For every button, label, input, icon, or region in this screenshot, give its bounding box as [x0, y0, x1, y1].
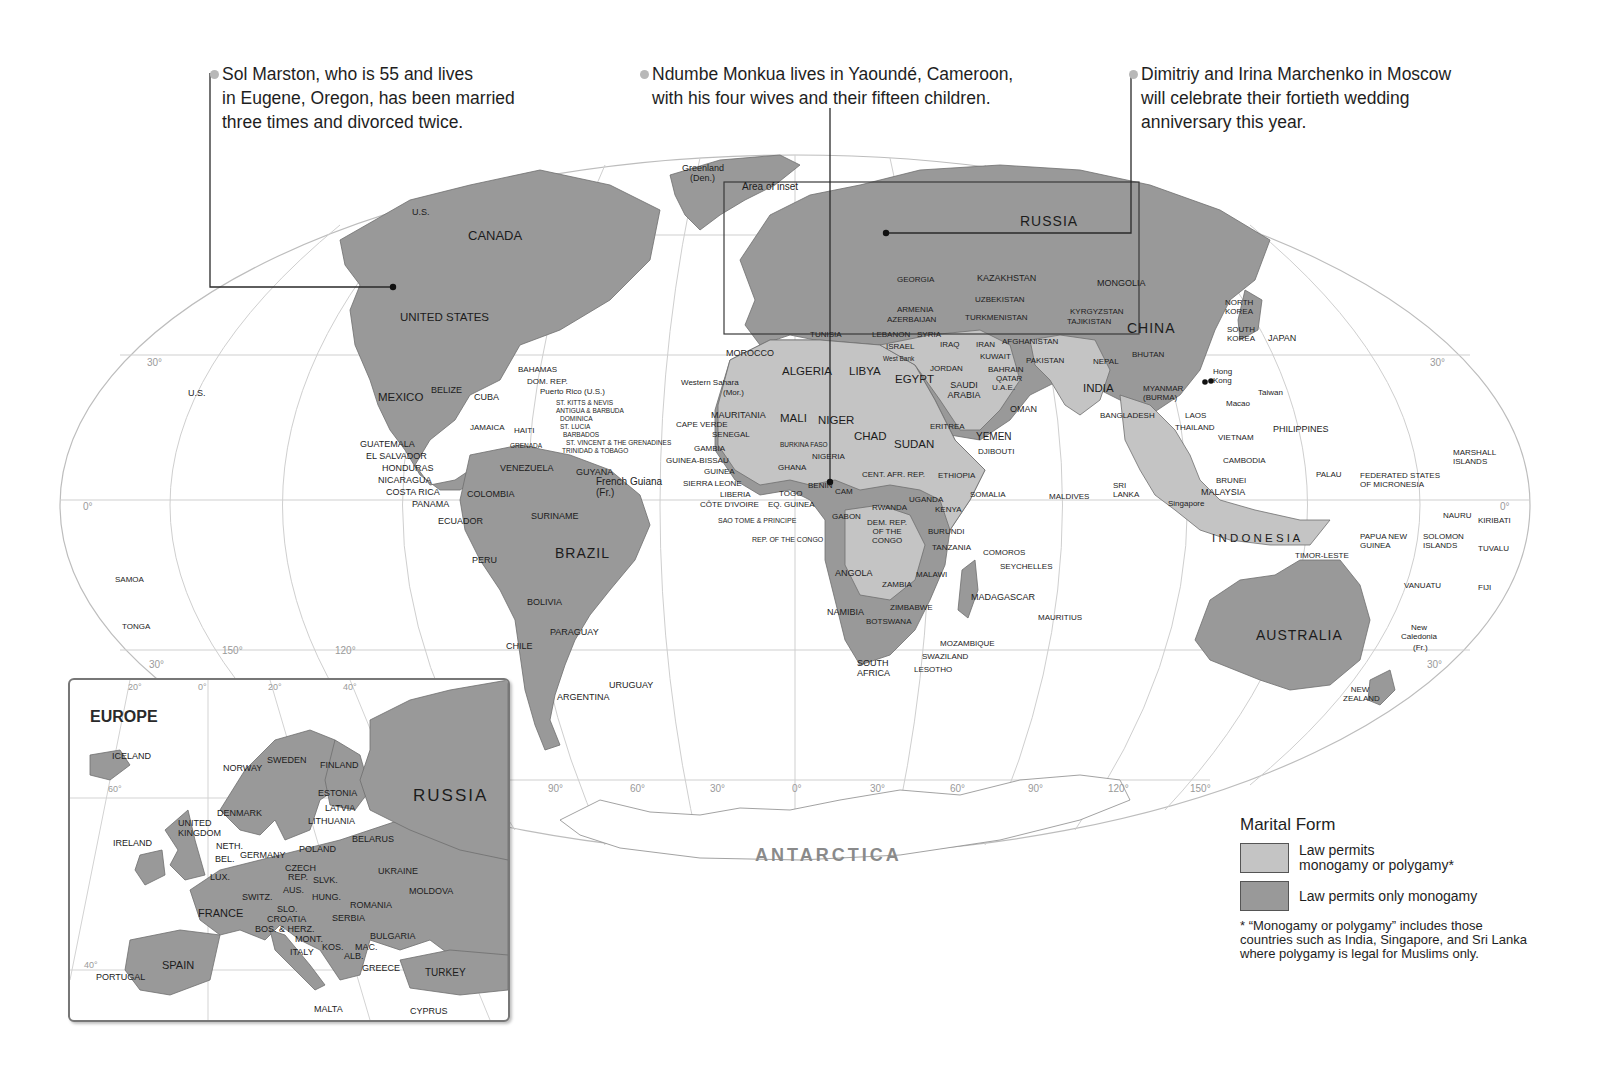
- label-rep-congo: REP. OF THE CONGO: [752, 535, 823, 544]
- label-morocco: MOROCCO: [726, 348, 774, 358]
- label-ecuador: ECUADOR: [438, 516, 483, 526]
- inset-label-portugal: PORTUGAL: [96, 973, 145, 982]
- label-paraguay: PARAGUAY: [550, 627, 599, 637]
- label-niger: NIGER: [818, 414, 854, 427]
- inset-label-bel: BEL.: [215, 855, 235, 864]
- inset-title: EUROPE: [90, 708, 158, 726]
- label-djibouti: DJIBOUTI: [978, 447, 1014, 456]
- bullet-icon: [640, 70, 649, 79]
- callout-marchenko: Dimitriy and Irina Marchenko in Moscow w…: [1141, 62, 1451, 134]
- label-kuwait: KUWAIT: [980, 352, 1011, 361]
- bullet-icon: [1129, 70, 1138, 79]
- label-haiti: HAITI: [514, 426, 534, 435]
- legend-item-monogamy: Law permits only monogamy: [1240, 881, 1530, 911]
- label-greenland: Greenland: [682, 163, 724, 173]
- inset-graticule-label: 0°: [198, 682, 207, 692]
- label-palau: PALAU: [1316, 470, 1342, 479]
- label-guinea: GUINEA: [704, 467, 735, 476]
- label-us-alaska: U.S.: [412, 207, 430, 217]
- inset-label-ukraine: UKRAINE: [378, 866, 418, 876]
- label-el-salvador: EL SALVADOR: [366, 451, 427, 461]
- inset-label-moldova: MOLDOVA: [409, 887, 453, 896]
- label-senegal: SENEGAL: [712, 430, 750, 439]
- inset-graticule-label: 20°: [128, 682, 142, 692]
- label-thailand: THAILAND: [1175, 423, 1215, 432]
- label-swaziland: SWAZILAND: [922, 652, 968, 661]
- label-bangladesh: BANGLADESH: [1100, 411, 1155, 420]
- bullet-icon: [210, 70, 219, 79]
- inset-label-turkey: TURKEY: [425, 968, 466, 978]
- label-costa-rica: COSTA RICA: [386, 487, 440, 497]
- label-marshall-islands: MARSHALL ISLANDS: [1453, 448, 1499, 466]
- label-new-caledonia-fr: (Fr.): [1413, 643, 1428, 652]
- label-cent-afr-rep: CENT. AFR. REP.: [862, 470, 925, 479]
- label-suriname: SURINAME: [531, 511, 579, 521]
- label-algeria: ALGERIA: [782, 365, 832, 378]
- inset-label-alb: ALB.: [344, 952, 364, 961]
- label-cote-divoire: CÔTE D'IVOIRE: [700, 500, 759, 509]
- label-nigeria: NIGERIA: [812, 452, 845, 461]
- label-egypt: EGYPT: [895, 373, 934, 386]
- legend-item-polygamy: Law permits monogamy or polygamy*: [1240, 843, 1530, 873]
- label-brazil: BRAZIL: [555, 545, 610, 561]
- label-burundi: BURUNDI: [928, 527, 964, 536]
- label-png: PAPUA NEW GUINEA: [1360, 532, 1412, 550]
- label-trinidad: TRINIDAD & TOBAGO: [562, 446, 628, 455]
- callout-line: will celebrate their fortieth wedding: [1141, 86, 1451, 110]
- label-angola: ANGOLA: [835, 568, 873, 578]
- label-jordan: JORDAN: [930, 364, 963, 373]
- inset-label-iceland: ICELAND: [112, 751, 151, 761]
- label-tajikistan: TAJIKISTAN: [1067, 317, 1111, 326]
- label-western-sahara-mor: (Mor.): [723, 388, 744, 397]
- lon-label: 150°: [222, 646, 243, 656]
- label-panama: PANAMA: [412, 499, 449, 509]
- inset-label-france: FRANCE: [198, 908, 243, 918]
- inset-label-romania: ROMANIA: [350, 901, 392, 910]
- inset-label-serbia: SERBIA: [332, 914, 365, 923]
- eugene-marker: [390, 284, 396, 290]
- label-indonesia: I N D O N E S I A: [1212, 532, 1300, 545]
- legend-swatch-light: [1240, 843, 1289, 873]
- label-georgia: GEORGIA: [897, 275, 934, 284]
- label-macao: Macao: [1226, 399, 1250, 408]
- label-sao-tome: SAO TOME & PRINCIPE: [718, 516, 796, 525]
- label-vanuatu: VANUATU: [1404, 581, 1441, 590]
- lon-label: 30°: [710, 784, 725, 794]
- label-nepal: NEPAL: [1093, 357, 1119, 366]
- inset-label-lux: LUX.: [210, 873, 230, 882]
- label-libya: LIBYA: [849, 365, 881, 378]
- inset-label-croatia: CROATIA: [267, 915, 306, 924]
- label-brunei: BRUNEI: [1216, 476, 1246, 485]
- label-micronesia: FEDERATED STATES OF MICRONESIA: [1360, 471, 1442, 489]
- label-india: INDIA: [1083, 382, 1114, 395]
- label-liberia: LIBERIA: [720, 490, 751, 499]
- label-colombia: COLOMBIA: [467, 489, 515, 499]
- inset-label-belarus: BELARUS: [352, 834, 394, 844]
- label-somalia: SOMALIA: [970, 490, 1006, 499]
- inset-graticule-label: 20°: [268, 682, 282, 692]
- label-madagascar: MADAGASCAR: [971, 592, 1035, 602]
- label-bahrain: BAHRAIN: [988, 365, 1024, 374]
- lat-label: 30°: [1430, 358, 1445, 368]
- inset-label-bos-herz: BOS. & HERZ.: [255, 925, 315, 934]
- label-ghana: GHANA: [778, 463, 806, 472]
- label-russia: RUSSIA: [1020, 213, 1078, 229]
- label-australia: AUSTRALIA: [1256, 627, 1343, 643]
- label-mali: MALI: [780, 412, 807, 425]
- label-uae: U.A.E.: [992, 383, 1015, 392]
- lat-label: 0°: [83, 502, 93, 512]
- label-area-of-inset: Area of inset: [742, 182, 798, 191]
- label-tanzania: TANZANIA: [932, 543, 971, 552]
- inset-graticule-label: 60°: [108, 784, 122, 794]
- moscow-marker: [883, 230, 889, 236]
- callout-marston: Sol Marston, who is 55 and lives in Euge…: [222, 62, 515, 134]
- label-seychelles: SEYCHELLES: [1000, 562, 1052, 571]
- label-iraq: IRAQ: [940, 340, 960, 349]
- label-united-states: UNITED STATES: [400, 311, 489, 324]
- label-guatemala: GUATEMALA: [360, 439, 415, 449]
- label-turkmenistan: TURKMENISTAN: [965, 313, 1028, 322]
- label-botswana: BOTSWANA: [866, 617, 911, 626]
- label-philippines: PHILIPPINES: [1273, 424, 1329, 434]
- label-south-korea: SOUTH KOREA: [1227, 325, 1261, 343]
- label-antarctica: ANTARCTICA: [755, 850, 902, 860]
